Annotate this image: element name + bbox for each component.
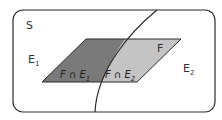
label-s: S	[26, 19, 33, 32]
diagram: S E1 E2 F F ∩ E1 F ∩ E2	[0, 0, 222, 120]
label-f: F	[157, 42, 163, 55]
